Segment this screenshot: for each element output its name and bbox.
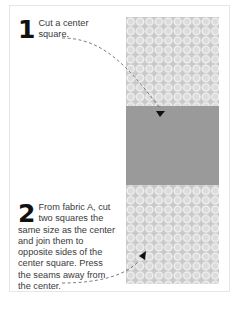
center-square: [126, 106, 219, 185]
fabric-a-bottom: [126, 185, 219, 284]
quilt-block-illustration: [0, 0, 237, 312]
fabric-a-top: [126, 17, 219, 106]
